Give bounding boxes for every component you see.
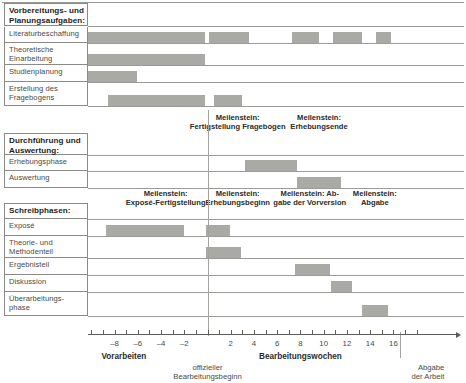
task-label-line: Literaturbeschaffung bbox=[9, 29, 87, 38]
axis-tick bbox=[231, 330, 232, 335]
submission-note-line: der Arbeit bbox=[378, 372, 444, 381]
task-label: Erstellung desFragebogens bbox=[4, 82, 88, 106]
gantt-bar bbox=[214, 95, 242, 106]
task-label-line: Überarbeitungs- bbox=[9, 294, 87, 303]
task-label-line: Ergebnisteil bbox=[9, 260, 87, 269]
axis-tick-label: 12 bbox=[338, 339, 356, 348]
gantt-bar bbox=[245, 160, 297, 171]
axis-tick bbox=[103, 330, 104, 335]
axis-tick bbox=[382, 330, 383, 335]
axis-tick bbox=[184, 330, 185, 335]
axis-tick bbox=[300, 330, 301, 335]
milestone-label: Meilenstein:Abgabe bbox=[313, 189, 437, 208]
task-label: Erhebungsphase bbox=[4, 155, 88, 171]
row-separator bbox=[88, 275, 464, 276]
task-label-line: Theorie- und bbox=[9, 238, 87, 247]
row-separator bbox=[88, 236, 464, 237]
axis-tick bbox=[173, 330, 174, 335]
row-separator bbox=[88, 43, 464, 44]
task-label-line: phase bbox=[9, 303, 87, 312]
submission-note-line: Abgabe bbox=[378, 363, 444, 372]
milestone-line: Meilenstein: bbox=[313, 189, 437, 198]
task-label-line: Erstellung des bbox=[9, 84, 87, 93]
gantt-bar bbox=[295, 264, 330, 275]
axis-caption-left: Vorarbeiten bbox=[74, 352, 174, 361]
gantt-bar bbox=[88, 54, 138, 65]
axis-tick bbox=[254, 330, 255, 335]
axis-tick bbox=[219, 330, 220, 335]
gantt-bar bbox=[362, 305, 388, 316]
axis-tick-label: 16 bbox=[384, 339, 402, 348]
axis-line bbox=[88, 334, 457, 335]
task-label-line: Exposé bbox=[9, 221, 87, 230]
milestone-line: Meilenstein: bbox=[257, 113, 381, 122]
axis-tick bbox=[324, 330, 325, 335]
gantt-bar bbox=[206, 247, 241, 258]
section-heading-line: Vorbereitungs- und bbox=[9, 6, 87, 16]
section-heading: Durchführung undAuswertung: bbox=[4, 133, 88, 155]
axis-tick-label: –2 bbox=[175, 339, 193, 348]
axis-tick bbox=[91, 330, 92, 335]
axis-tick bbox=[266, 330, 267, 335]
axis-tick bbox=[289, 330, 290, 335]
row-separator bbox=[88, 292, 464, 293]
axis-tick bbox=[208, 330, 209, 335]
axis-tick bbox=[138, 330, 139, 335]
axis-tick-label: 8 bbox=[291, 339, 309, 348]
task-label: Exposé bbox=[4, 219, 88, 236]
task-label: Überarbeitungs-phase bbox=[4, 292, 88, 316]
task-label: Literaturbeschaffung bbox=[4, 27, 88, 43]
axis-tick-label: 10 bbox=[315, 339, 333, 348]
gantt-bar bbox=[333, 32, 362, 43]
section-heading-line: Schreibphasen: bbox=[9, 206, 87, 216]
axis-tick-label: –8 bbox=[106, 339, 124, 348]
task-label-line: Erhebungsphase bbox=[9, 157, 87, 166]
gantt-bar bbox=[88, 71, 137, 82]
axis-tick bbox=[417, 330, 418, 335]
row-separator bbox=[88, 106, 464, 107]
axis-tick-label: 2 bbox=[222, 339, 240, 348]
task-label: Ergebnisteil bbox=[4, 258, 88, 275]
task-label-line: Einarbeitung bbox=[9, 54, 87, 63]
row-separator bbox=[88, 171, 464, 172]
task-label: Theorie- undMethodenteil bbox=[4, 236, 88, 258]
official-start-note-line: Bearbeitungsbeginn bbox=[148, 372, 268, 381]
axis-tick bbox=[277, 330, 278, 335]
section-heading-rule bbox=[88, 155, 464, 156]
task-label-line: Diskussion bbox=[9, 277, 87, 286]
axis-tick-label: –6 bbox=[129, 339, 147, 348]
task-label: Auswertung bbox=[4, 171, 88, 188]
zero-reference-line bbox=[208, 110, 209, 336]
gantt-bar bbox=[331, 281, 352, 292]
official-start-note-line: offizieller bbox=[148, 363, 268, 372]
task-label-line: Theoretische bbox=[9, 45, 87, 54]
task-label-line: Auswertung bbox=[9, 173, 87, 182]
axis-tick bbox=[370, 330, 371, 335]
gantt-bar bbox=[88, 32, 205, 43]
axis-tick bbox=[149, 330, 150, 335]
submission-note: Abgabeder Arbeit bbox=[378, 363, 444, 382]
section-heading-line: Planungsaufgaben: bbox=[9, 16, 87, 26]
axis-tick bbox=[196, 330, 197, 335]
section-heading-rule bbox=[88, 26, 464, 27]
task-label-line: Studienplanung bbox=[9, 67, 87, 76]
gantt-bar bbox=[106, 225, 184, 236]
row-separator bbox=[88, 65, 464, 66]
milestone-line: Abgabe bbox=[313, 198, 437, 207]
section-heading: Schreibphasen: bbox=[4, 203, 88, 219]
gantt-bar bbox=[108, 95, 206, 106]
row-separator bbox=[88, 82, 464, 83]
official-start-note: offiziellerBearbeitungsbeginn bbox=[148, 363, 268, 382]
axis-tick bbox=[347, 330, 348, 335]
task-label: TheoretischeEinarbeitung bbox=[4, 43, 88, 65]
gantt-bar bbox=[292, 32, 319, 43]
axis-tick bbox=[312, 330, 313, 335]
row-separator bbox=[88, 258, 464, 259]
milestone-line: Erhebungsende bbox=[257, 122, 381, 131]
axis-tick-label: 4 bbox=[245, 339, 263, 348]
section-heading-rule bbox=[88, 219, 464, 220]
axis-tick bbox=[242, 330, 243, 335]
gantt-bar bbox=[297, 177, 341, 188]
axis-tick bbox=[405, 330, 406, 335]
axis-tick-label: 14 bbox=[361, 339, 379, 348]
